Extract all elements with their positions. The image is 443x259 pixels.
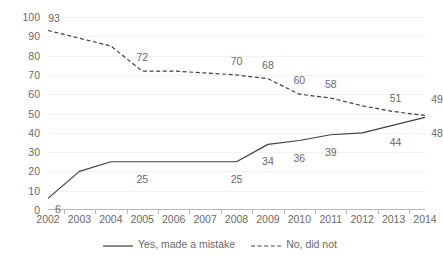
data-point-label: 60: [293, 75, 305, 86]
data-point-label: 44: [390, 137, 402, 148]
x-axis-tick-label: 2011: [319, 214, 342, 225]
legend-label: No, did not: [286, 238, 337, 250]
x-axis-tick-label: 2006: [162, 214, 185, 225]
y-axis-tick-label: 90: [6, 31, 40, 42]
x-axis-tick-label: 2014: [413, 214, 436, 225]
data-point-label: 68: [262, 59, 274, 70]
data-point-label: 72: [136, 52, 148, 63]
data-point-label: 34: [262, 156, 274, 167]
data-point-label: 25: [136, 173, 148, 184]
y-axis-tick-label: 80: [6, 51, 40, 62]
data-point-label: 36: [293, 152, 305, 163]
legend-label: Yes, made a mistake: [138, 238, 235, 250]
legend-dashed-line-icon: [251, 240, 281, 248]
data-point-label: 70: [231, 55, 243, 66]
y-axis-tick-label: 20: [6, 166, 40, 177]
x-axis-tick-label: 2010: [288, 214, 311, 225]
x-axis-tick-label: 2004: [99, 214, 122, 225]
y-axis-tick-label: 10: [6, 186, 40, 197]
x-axis-tick-label: 2007: [193, 214, 216, 225]
x-axis-tick: [189, 210, 190, 214]
chart-legend: Yes, made a mistakeNo, did not: [0, 238, 440, 250]
x-axis-tick-label: 2005: [131, 214, 154, 225]
x-axis-tick: [346, 210, 347, 214]
data-point-label: 58: [325, 79, 337, 90]
x-axis-tick-label: 2003: [68, 214, 91, 225]
series-line: [48, 31, 425, 116]
data-point-label: 25: [231, 173, 243, 184]
y-axis: 1009080706050403020100: [0, 17, 40, 210]
x-axis-tick: [315, 210, 316, 214]
legend-item[interactable]: No, did not: [251, 238, 337, 250]
legend-solid-line-icon: [103, 240, 133, 248]
data-point-label: 51: [390, 92, 402, 103]
x-axis-tick-label: 2002: [36, 214, 59, 225]
x-axis-tick: [95, 210, 96, 214]
plot-area: 6252534363944489372706860585149: [48, 17, 425, 210]
series-line: [48, 117, 425, 198]
x-axis-tick: [64, 210, 65, 214]
y-axis-tick-label: 0: [6, 205, 40, 216]
x-axis-tick-label: 2009: [256, 214, 279, 225]
legend-item[interactable]: Yes, made a mistake: [103, 238, 235, 250]
x-axis-tick: [409, 210, 410, 214]
data-point-label: 93: [48, 12, 60, 23]
y-axis-tick-label: 100: [6, 12, 40, 23]
y-axis-tick-label: 30: [6, 147, 40, 158]
y-axis-tick-label: 50: [6, 109, 40, 120]
x-axis-tick: [252, 210, 253, 214]
x-axis-tick: [221, 210, 222, 214]
x-axis-tick: [284, 210, 285, 214]
y-axis-tick-label: 40: [6, 128, 40, 139]
x-axis-tick-label: 2013: [382, 214, 405, 225]
y-axis-tick-label: 70: [6, 70, 40, 81]
data-point-label: 39: [325, 146, 337, 157]
x-axis-tick-label: 2012: [350, 214, 373, 225]
data-point-label: 49: [431, 94, 443, 105]
x-axis-tick: [127, 210, 128, 214]
x-axis-tick: [158, 210, 159, 214]
x-axis-tick: [378, 210, 379, 214]
x-axis-tick-label: 2008: [225, 214, 248, 225]
y-axis-tick-label: 60: [6, 89, 40, 100]
data-point-label: 48: [431, 128, 443, 139]
